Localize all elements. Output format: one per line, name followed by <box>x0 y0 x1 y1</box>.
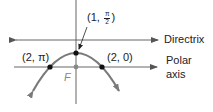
right-point <box>99 64 104 69</box>
directrix-label: Directrix <box>164 34 204 45</box>
polar-axis-label-line1: Polar <box>166 55 192 66</box>
vertex-point <box>73 50 78 55</box>
vertex-label-prefix: (1, <box>87 11 103 23</box>
focus-label: F <box>64 72 71 83</box>
left-point-label: (2, π) <box>22 52 49 63</box>
pi-over-two-fraction: π2 <box>104 11 111 25</box>
right-point-label: (2, 0) <box>107 52 133 63</box>
vertex-pointer <box>79 27 87 49</box>
polar-axis-label-line2: axis <box>166 69 186 80</box>
vertex-label: (1, π2) <box>87 11 115 25</box>
focus-point <box>74 65 79 70</box>
left-point <box>47 64 52 69</box>
fraction-denominator: 2 <box>105 19 109 26</box>
vertex-label-suffix: ) <box>111 11 115 23</box>
parabola-diagram: (1, π2) (2, π) (2, 0) Directrix Polar ax… <box>0 0 213 112</box>
